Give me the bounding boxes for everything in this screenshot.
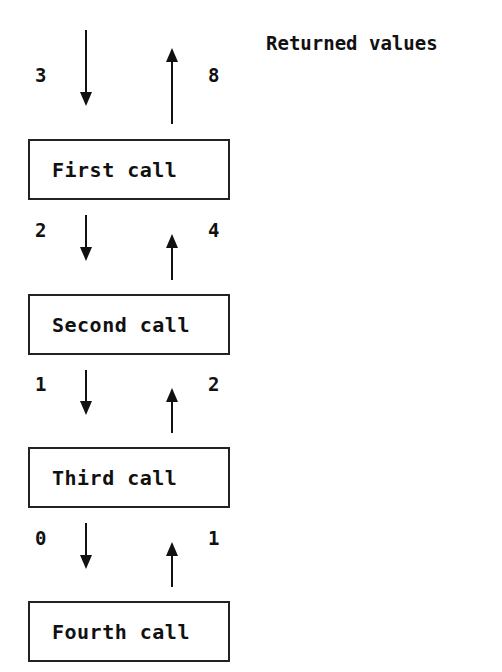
argument-label: 0 [35,527,46,549]
up-arrow-icon [166,234,178,280]
call-label: First call [52,158,177,182]
argument-label: 2 [35,219,46,241]
call-label: Second call [52,313,190,337]
call-label: Third call [52,466,177,490]
returned-value-label: 2 [208,373,219,395]
down-arrow-icon [80,215,92,261]
call-label: Fourth call [52,620,190,644]
returned-value-label: 4 [208,219,219,241]
up-arrow-icon [166,542,178,587]
argument-label: 1 [35,373,46,395]
down-arrow-icon [80,370,92,415]
returned-value-label: 1 [208,527,219,549]
call-box-first: First call [28,139,230,200]
call-box-third: Third call [28,447,230,508]
up-arrow-icon [166,388,178,433]
call-box-second: Second call [28,294,230,355]
down-arrow-icon [80,30,92,106]
up-arrow-icon [166,48,178,124]
call-box-fourth: Fourth call [28,601,230,662]
returned-value-label: 8 [208,64,219,86]
down-arrow-icon [80,523,92,569]
argument-label: 3 [35,64,46,86]
